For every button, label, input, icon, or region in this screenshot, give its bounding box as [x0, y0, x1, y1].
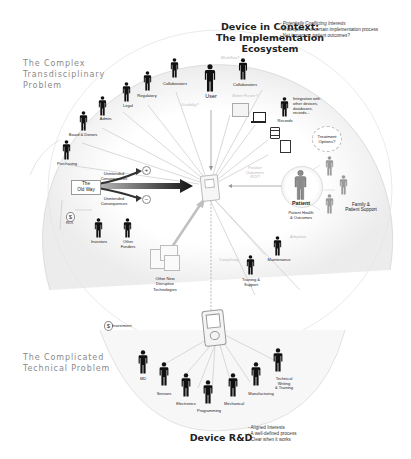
title-line: Problem: [23, 80, 105, 91]
maintenance-label: Maintenance: [262, 258, 296, 263]
treatment-line: Options?: [313, 139, 341, 144]
old-way-box: The Old Way: [71, 180, 101, 195]
legal-person: [122, 82, 131, 102]
patient-outcomes-label: Patient Health & Outcomes: [280, 211, 322, 220]
admin-person: [98, 96, 107, 116]
person-icon: [294, 170, 307, 200]
rd-device-icon: [201, 309, 227, 347]
family-person-1: [325, 156, 334, 176]
patient-label: Patient: [285, 200, 317, 206]
programming-label: Programming: [191, 409, 227, 414]
person-icon: [339, 175, 348, 195]
collaborators-left-label: Collaborators: [155, 82, 195, 87]
medical-device-icon: [200, 174, 221, 202]
sensors-person: [159, 362, 169, 386]
database-icon: [270, 127, 280, 139]
person-icon: [79, 111, 88, 131]
label-line: & Outcomes: [280, 216, 322, 221]
legal-label: Legal: [108, 104, 148, 109]
label-line: Consequences: [97, 202, 131, 207]
integration-note: Integration with other devices, database…: [293, 97, 320, 116]
label-line: Support: [235, 283, 267, 288]
device-screen: [204, 179, 215, 189]
technical-writing-label: Technical Writing & Training: [266, 377, 302, 391]
records-person: [280, 97, 289, 117]
board-donors-person: [79, 111, 88, 131]
title-line: Technical Problem: [23, 363, 110, 374]
programming-person: [203, 380, 213, 404]
header-bullets: - Potentially Conflicting Interests - A …: [280, 21, 410, 39]
person-icon: [251, 362, 261, 386]
purchasing-label: Purchasing: [47, 162, 87, 167]
person-icon: [273, 348, 283, 372]
treatment-options-gear-icon: Treatment Options?: [312, 126, 342, 152]
electronics-person: [181, 373, 191, 397]
md-person: [138, 350, 148, 374]
investment-label: Investment: [112, 324, 132, 329]
note-line: records...: [293, 111, 320, 116]
electronics-label: Electronics: [170, 402, 202, 407]
unintended-consequences-lower: Unintended Consequences: [97, 197, 131, 206]
purchasing-person: [62, 140, 71, 160]
collaborators-right-person: [238, 58, 248, 80]
better-faster-note: Better Faster?: [225, 94, 265, 99]
user-person: [204, 64, 216, 92]
family-support-label: Family & Patient Support: [336, 202, 386, 213]
document-icon: [280, 140, 291, 153]
title-line: Transdisciplinary: [23, 69, 105, 80]
label-line: Funders: [112, 245, 144, 250]
positive-outcomes-note: Positive Outcomes ROI?: [240, 166, 270, 180]
md-label: MD: [128, 377, 158, 382]
person-icon: [203, 380, 213, 404]
maintenance-person: [273, 236, 282, 256]
title-line: The Complicated: [23, 352, 110, 363]
person-icon: [280, 97, 289, 117]
person-icon: [204, 64, 216, 92]
person-icon: [273, 236, 282, 256]
device-screen: [206, 313, 221, 328]
manufacturing-person: [251, 362, 261, 386]
disruptive-devices-icon: [148, 245, 182, 271]
training-label: Training & Support: [235, 278, 267, 287]
person-icon: [325, 156, 334, 176]
family-person-3: [325, 194, 334, 214]
footer-title: Device R&D: [186, 432, 256, 443]
regulatory-label: Regulatory: [127, 94, 167, 99]
family-person-2: [339, 175, 348, 195]
technical-writing-person: [273, 348, 283, 372]
footer-bullets: - Aligned Interests - A well-defined pro…: [248, 425, 358, 443]
plus-icon: +: [142, 166, 151, 175]
collaborators-left-person: [170, 58, 179, 78]
regulatory-person: [143, 71, 152, 91]
other-funders-person: [123, 218, 132, 238]
records-label: Records: [268, 119, 302, 124]
complexity-note: Complexity: [212, 258, 246, 263]
person-icon: [62, 140, 71, 160]
label-line: Technologies: [145, 287, 185, 292]
training-person: [246, 255, 255, 275]
person-icon: [143, 71, 152, 91]
complex-problem-title: The Complex Transdisciplinary Problem: [23, 58, 105, 91]
mechanical-person: [228, 373, 238, 397]
patient-person: [294, 170, 307, 200]
usability-note: Usability?: [175, 103, 205, 108]
person-icon: [94, 218, 103, 238]
board-donors-label: Board & Donors: [63, 133, 103, 138]
footer-bullet: - Clear when it works: [248, 437, 358, 443]
person-icon: [159, 362, 169, 386]
person-icon: [123, 218, 132, 238]
complicated-problem-title: The Complicated Technical Problem: [23, 352, 110, 374]
chart-document-icon: [232, 103, 249, 117]
minus-icon: −: [142, 195, 151, 204]
roi-label: ROI: [62, 221, 77, 226]
title-line: The Complex: [23, 58, 105, 69]
adoption-note: Adoption: [283, 235, 313, 240]
person-icon: [181, 373, 191, 397]
label-line: Patient Support: [336, 207, 386, 212]
device-sketch: [164, 255, 180, 271]
sensors-label: Sensors: [149, 392, 179, 397]
manufacturing-label: Manufacturing: [241, 392, 281, 397]
person-icon: [170, 58, 179, 78]
mechanical-label: Mechanical: [217, 402, 251, 407]
person-icon: [325, 194, 334, 214]
